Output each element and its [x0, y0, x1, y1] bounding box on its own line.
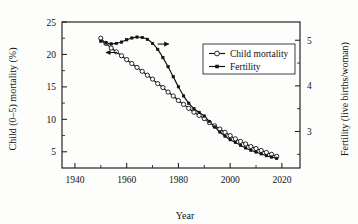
- y-right-tick-label: 3: [307, 127, 312, 137]
- marker-fertility: [239, 144, 241, 146]
- x-tick-label: 2000: [221, 175, 240, 185]
- marker-fertility: [229, 139, 231, 141]
- marker-child-mortality: [228, 133, 232, 137]
- marker-child-mortality: [254, 146, 258, 150]
- marker-fertility: [193, 108, 195, 110]
- marker-fertility: [131, 37, 133, 39]
- marker-fertility: [167, 66, 169, 68]
- marker-child-mortality: [264, 150, 268, 154]
- marker-child-mortality: [249, 144, 253, 148]
- legend-label-0: Child mortality: [230, 49, 289, 59]
- marker-child-mortality: [135, 65, 139, 69]
- legend-marker-fertility: [216, 65, 219, 68]
- marker-fertility: [126, 39, 128, 41]
- y-left-tick-label: 15: [47, 82, 57, 92]
- marker-fertility: [177, 86, 179, 88]
- marker-fertility: [141, 36, 143, 38]
- y-left-tick-label: 25: [47, 18, 57, 28]
- x-tick-label: 1980: [169, 175, 188, 185]
- marker-fertility: [245, 147, 247, 149]
- y-left-tick-label: 10: [47, 115, 57, 125]
- marker-child-mortality: [259, 148, 263, 152]
- y-axis-right-title: Fertility (live births/woman): [339, 42, 351, 156]
- right-axis-arrow-head: [164, 41, 169, 46]
- marker-child-mortality: [181, 102, 185, 106]
- marker-child-mortality: [233, 137, 237, 141]
- marker-child-mortality: [161, 85, 165, 89]
- marker-child-mortality: [192, 110, 196, 114]
- marker-child-mortality: [187, 106, 191, 110]
- x-tick-label: 2020: [272, 175, 291, 185]
- x-axis-title: Year: [176, 210, 195, 221]
- y-right-tick-label: 5: [307, 36, 312, 46]
- marker-child-mortality: [150, 77, 154, 81]
- marker-fertility: [162, 56, 164, 58]
- left-axis-arrow-head: [105, 50, 110, 55]
- marker-fertility: [157, 48, 159, 50]
- y-axis-left-title: Child (0–5) mortality (%): [7, 47, 19, 150]
- marker-child-mortality: [238, 139, 242, 143]
- marker-child-mortality: [109, 46, 113, 50]
- marker-child-mortality: [130, 61, 134, 65]
- marker-fertility: [255, 151, 257, 153]
- dual-axis-line-chart: 19401960198020002020510152025345 Child m…: [0, 0, 358, 224]
- x-tick-label: 1960: [117, 175, 136, 185]
- marker-fertility: [115, 42, 117, 44]
- y-right-tick-label: 4: [307, 81, 312, 91]
- marker-fertility: [265, 155, 267, 157]
- marker-fertility: [276, 157, 278, 159]
- marker-fertility: [203, 115, 205, 117]
- marker-child-mortality: [166, 90, 170, 94]
- marker-child-mortality: [119, 54, 123, 58]
- marker-fertility: [213, 126, 215, 128]
- marker-fertility: [198, 111, 200, 113]
- chart-legend: Child mortalityFertility: [203, 44, 295, 74]
- marker-fertility: [219, 131, 221, 133]
- marker-fertility: [151, 42, 153, 44]
- legend-label-1: Fertility: [230, 62, 261, 72]
- marker-fertility: [234, 141, 236, 143]
- marker-child-mortality: [125, 58, 129, 62]
- marker-fertility: [105, 42, 107, 44]
- y-left-tick-label: 20: [47, 50, 57, 60]
- marker-child-mortality: [145, 73, 149, 77]
- marker-fertility: [120, 41, 122, 43]
- x-tick-label: 1940: [65, 175, 84, 185]
- marker-fertility: [146, 38, 148, 40]
- marker-child-mortality: [223, 130, 227, 134]
- marker-child-mortality: [156, 82, 160, 86]
- marker-child-mortality: [140, 69, 144, 73]
- marker-fertility: [224, 135, 226, 137]
- marker-child-mortality: [114, 50, 118, 54]
- marker-fertility: [208, 120, 210, 122]
- marker-fertility: [100, 40, 102, 42]
- marker-fertility: [182, 95, 184, 97]
- marker-fertility: [172, 76, 174, 78]
- marker-fertility: [188, 102, 190, 104]
- marker-fertility: [270, 156, 272, 158]
- marker-fertility: [260, 153, 262, 155]
- marker-fertility: [136, 36, 138, 38]
- marker-child-mortality: [171, 94, 175, 98]
- marker-fertility: [250, 149, 252, 151]
- marker-child-mortality: [197, 113, 201, 117]
- marker-child-mortality: [244, 142, 248, 146]
- marker-fertility: [110, 43, 112, 45]
- legend-marker-child-mortality: [215, 51, 220, 56]
- figure-container: 19401960198020002020510152025345 Child m…: [0, 0, 358, 224]
- marker-child-mortality: [176, 98, 180, 102]
- y-left-tick-label: 5: [51, 147, 56, 157]
